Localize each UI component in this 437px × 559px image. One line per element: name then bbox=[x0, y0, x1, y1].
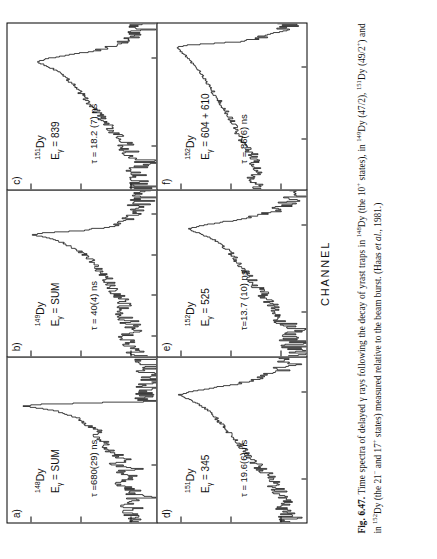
caption-text-4: Dy (47/2), bbox=[356, 89, 366, 131]
caption-iso-151: 151 bbox=[354, 80, 361, 90]
spectrum-panel-e: e) 152Dy Eγ = 525 τ=13.7 (10) ns350400 bbox=[156, 189, 307, 357]
caption-text-5: Dy (49/2 bbox=[356, 46, 366, 80]
caption-sup-4: + bbox=[370, 439, 377, 443]
caption-iso-149: 149 bbox=[354, 131, 361, 141]
caption-number: Fig. 6.47. bbox=[356, 496, 366, 533]
caption-sup-2: + bbox=[354, 42, 361, 46]
spectrum-panel-c: c) 151Dy Eγ = 839 τ = 18.2 (7) ns350400 bbox=[6, 23, 157, 191]
caption-text-1: Time spectra of delayed γ rays following… bbox=[356, 237, 366, 494]
figure-caption: Fig. 6.47. Time spectra of delayed γ ray… bbox=[352, 23, 383, 533]
caption-text-8: and 17 bbox=[372, 443, 382, 470]
caption-text-9: states) measured relative to the beam bu… bbox=[372, 249, 382, 438]
spectrum-panel-d: d) 151Dy Eγ = 345 τ = 19.6(6) ns10100100… bbox=[156, 356, 307, 524]
caption-text-2: Dy (the 10 bbox=[356, 186, 366, 227]
caption-text-10: , 1981.) bbox=[372, 202, 382, 231]
caption-iso-148: 148 bbox=[354, 227, 361, 237]
spectrum-panel-a: a) 148Dy Eγ = SUM τ =680(29) ns101001000… bbox=[6, 356, 157, 524]
figure-plots: NUMBER OF COUNTS a) 148Dy Eγ = SUM τ =68… bbox=[0, 0, 340, 559]
x-axis-label: CHANNEL bbox=[318, 23, 330, 523]
caption-sup-3: − bbox=[370, 470, 377, 474]
figure-page: NUMBER OF COUNTS a) 148Dy Eγ = SUM τ =68… bbox=[0, 0, 437, 559]
panel-grid: a) 148Dy Eγ = SUM τ =680(29) ns101001000… bbox=[6, 23, 306, 523]
spectrum-panel-b: b) 149Dy Eγ = SUM τ = 40(4) ns2003004005… bbox=[6, 189, 157, 357]
caption-iso-152: 152 bbox=[370, 514, 377, 524]
caption-text-7: Dy (the 21 bbox=[372, 474, 382, 514]
caption-text-3: states), in bbox=[356, 141, 366, 182]
caption-etal: et al. bbox=[372, 231, 382, 250]
spectrum-panel-f: f) 152Dy Eγ = 604 + 610 τ = 86(6) ns2004… bbox=[156, 23, 307, 191]
